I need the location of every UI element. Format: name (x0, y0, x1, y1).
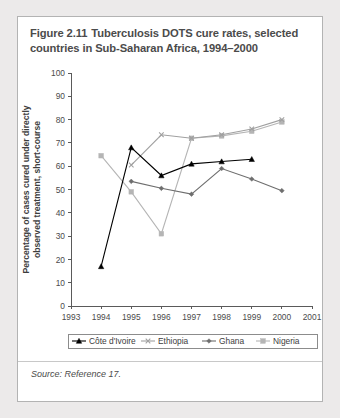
y-tick-label: 10 (56, 278, 66, 288)
x-tick-label: 1997 (182, 312, 201, 322)
data-point (129, 145, 134, 150)
data-point (98, 264, 103, 269)
data-point (159, 231, 164, 236)
x-tick-label: 1998 (212, 312, 231, 322)
y-tick-label: 80 (56, 115, 66, 125)
page-title: Figure 2.11Tuberculosis DOTS cure rates,… (30, 26, 312, 56)
figure-panel: Figure 2.11Tuberculosis DOTS cure rates,… (17, 16, 323, 402)
series-ghana (129, 166, 284, 196)
chart-container: 0102030405060708090100199319941995199619… (18, 61, 322, 376)
data-point (129, 163, 134, 168)
y-tick-label: 40 (56, 208, 66, 218)
y-tick-label: 90 (56, 91, 66, 101)
x-tick-label: 2001 (303, 312, 322, 322)
y-tick-label: 50 (56, 185, 66, 195)
legend-label: Ghana (219, 336, 244, 346)
divider (18, 361, 322, 362)
series-line (131, 120, 282, 165)
data-point (280, 188, 285, 193)
data-point (129, 190, 134, 195)
series-nigeria (99, 120, 284, 236)
x-tick-label: 2000 (273, 312, 292, 322)
y-axis-title: Percentage of cases cured under directly… (21, 105, 42, 273)
data-point (249, 177, 254, 182)
y-tick-label: 100 (51, 68, 65, 78)
legend-marker (261, 339, 266, 344)
y-tick-label: 20 (56, 255, 66, 265)
x-tick-label: 1999 (242, 312, 261, 322)
x-tick-label: 1994 (92, 312, 111, 322)
data-point (129, 179, 134, 184)
series-line (101, 148, 252, 267)
figure-number: Figure 2.11 (30, 27, 87, 39)
data-point (159, 186, 164, 191)
legend-label: Côte d'Ivoire (89, 336, 136, 346)
legend-label: Ethiopia (158, 336, 189, 346)
y-tick-label: 70 (56, 138, 66, 148)
series-line (131, 169, 282, 195)
y-tick-label: 30 (56, 231, 66, 241)
x-tick-label: 1993 (62, 312, 81, 322)
series-c-te-d-ivoire (98, 145, 254, 269)
series-ethiopia (129, 117, 284, 167)
y-tick-label: 0 (60, 301, 65, 311)
line-chart: 0102030405060708090100199319941995199619… (18, 61, 322, 376)
y-tick-label: 60 (56, 161, 66, 171)
y-axis-title-line2: observed treatment, short-course (32, 121, 42, 258)
x-tick-label: 1995 (122, 312, 141, 322)
legend-label: Nigeria (273, 336, 300, 346)
y-axis-title-line1: Percentage of cases cured under directly (21, 105, 31, 273)
source-note: Source: Reference 17. (31, 369, 121, 379)
data-point (99, 153, 104, 158)
x-tick-label: 1996 (152, 312, 171, 322)
